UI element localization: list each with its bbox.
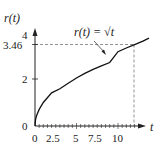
x-tick-label-7.5: 7.5 <box>88 132 102 144</box>
x-axis-label: t <box>150 120 154 134</box>
x-tick-label-2.5: 2.5 <box>46 132 60 144</box>
x-axis-arrow-icon <box>138 124 146 129</box>
y-tick-label-4: 4 <box>22 29 28 41</box>
x-tick-label-5: 5 <box>73 132 79 144</box>
x-tick-label-10: 10 <box>112 132 124 144</box>
curve-annotation: r(t) = √t <box>74 25 115 39</box>
y-tick-label-346: 3.46 <box>3 39 23 51</box>
sqrt-chart: r(t) 4 3.46 2 0 0 2.5 5 7.5 10 t r(t) = … <box>0 0 161 155</box>
y-tick-label-0: 0 <box>22 120 28 132</box>
sqrt-curve <box>35 38 149 126</box>
y-axis-label: r(t) <box>4 11 20 25</box>
x-tick-label-0: 0 <box>32 132 38 144</box>
y-tick-label-2: 2 <box>22 73 28 85</box>
y-axis-arrow-icon <box>33 28 38 36</box>
